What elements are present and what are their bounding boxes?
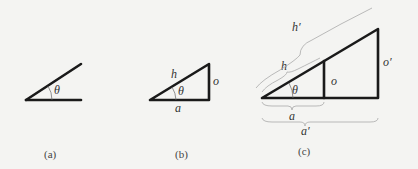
panel-caption: (b) bbox=[175, 148, 188, 161]
adjacent-label: a bbox=[175, 101, 181, 115]
adjacent-prime-brace bbox=[262, 118, 378, 126]
panel-b: θ h o a (b) bbox=[150, 64, 219, 161]
panel-a: θ (a) bbox=[26, 64, 81, 161]
angle-arc bbox=[48, 86, 52, 100]
panel-c: θ h h′ o o′ a a′ (c) bbox=[256, 8, 392, 158]
angle-label: θ bbox=[292, 83, 298, 97]
hypotenuse-prime-brace bbox=[256, 8, 372, 88]
angle-arc bbox=[172, 87, 176, 100]
panel-caption: (c) bbox=[298, 145, 311, 158]
similar-triangles-figure: θ (a) θ h o a (b) θ h h′ o o′ bbox=[0, 0, 418, 169]
hypotenuse-label: h bbox=[171, 67, 177, 81]
opposite-label: o bbox=[213, 74, 219, 88]
opposite-label: o bbox=[331, 74, 337, 88]
opposite-prime-label: o′ bbox=[383, 55, 392, 69]
angle-label: θ bbox=[178, 84, 184, 98]
angle-label: θ bbox=[54, 83, 60, 97]
large-right-triangle bbox=[262, 29, 378, 98]
adjacent-label: a bbox=[289, 109, 295, 123]
panel-caption: (a) bbox=[44, 148, 57, 161]
hypotenuse-prime-label: h′ bbox=[292, 20, 301, 34]
figure-svg: θ (a) θ h o a (b) θ h h′ o o′ bbox=[0, 0, 418, 169]
adjacent-prime-label: a′ bbox=[301, 124, 310, 138]
